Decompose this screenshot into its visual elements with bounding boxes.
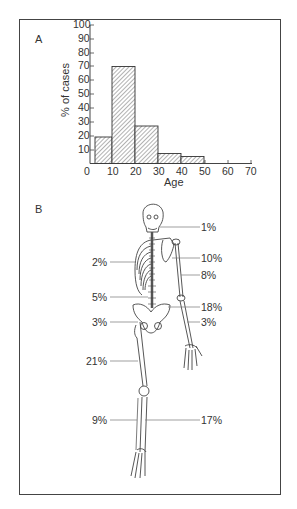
tibia-icon (140, 397, 147, 452)
pelvis-icon (133, 304, 170, 333)
humerus-icon (175, 243, 183, 297)
label-fibula: 9% (92, 414, 107, 426)
label-skull: 1% (201, 221, 216, 233)
label-humerus: 8% (201, 269, 216, 281)
skull-icon (143, 204, 163, 232)
foot-icon (131, 449, 146, 478)
label-ribs: 2% (92, 256, 107, 268)
label-hip: 3% (92, 316, 107, 328)
label-femur: 21% (86, 355, 107, 367)
ribs-icon (135, 240, 151, 295)
label-tibia: 17% (201, 414, 222, 426)
forearm-icon (180, 301, 193, 348)
label-pelvis: 18% (201, 301, 222, 313)
fibula-icon (136, 398, 138, 450)
clavicle-icon (153, 238, 170, 240)
label-spine: 5% (92, 291, 107, 303)
label-forearm: 3% (201, 316, 216, 328)
label-scapula: 10% (201, 252, 222, 264)
femur-icon (135, 322, 147, 386)
skeleton-illustration (0, 0, 297, 509)
hand-icon (184, 345, 202, 370)
